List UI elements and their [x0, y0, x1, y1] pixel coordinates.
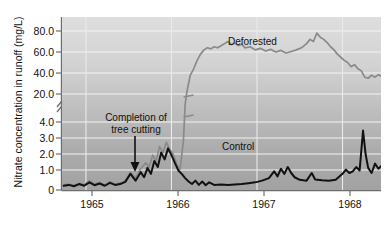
y-tick-80: 80.0	[8, 26, 54, 36]
y-tick-60: 60.0	[8, 47, 54, 57]
annotation-tree-cutting: Completion of tree cutting	[84, 112, 188, 136]
y-tick-1: 1.0	[8, 165, 54, 175]
y-tick-2: 2.0	[8, 149, 54, 159]
plot-area	[62, 17, 381, 190]
annotation-tree-cutting-line2: tree cutting	[84, 124, 188, 136]
x-tick-1968: 1968	[320, 198, 380, 210]
y-tick-0: 0	[8, 185, 54, 195]
y-tick-4: 4.0	[8, 117, 54, 127]
annotation-deforested: Deforested	[228, 36, 277, 48]
x-tick-1966: 1966	[148, 198, 208, 210]
plot-background	[62, 17, 381, 190]
y-tick-40: 40.0	[8, 68, 54, 78]
y-axis-tick-labels: 80.0 60.0 40.0 20.0 4.0 3.0 2.0 1.0 0	[8, 0, 54, 231]
plot-svg	[62, 17, 381, 190]
x-tick-1967: 1967	[234, 198, 294, 210]
annotation-tree-cutting-line1: Completion of	[84, 112, 188, 124]
y-tick-20: 20.0	[8, 89, 54, 99]
y-tick-3: 3.0	[8, 133, 54, 143]
x-tick-1965: 1965	[62, 198, 122, 210]
annotation-control: Control	[222, 141, 254, 153]
nitrate-runoff-chart: Nitrate concentration in runoff (mg/L) 8…	[0, 0, 387, 231]
